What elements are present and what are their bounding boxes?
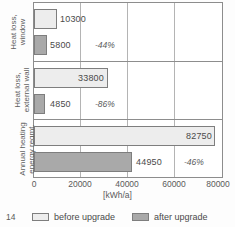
category-label-line-1: Heat loss, [13,68,22,112]
category-label-line-1: Heat loss, [9,14,18,50]
gridline-20000 [80,3,81,177]
category-label-line-1: Annual heating [18,122,27,175]
xtick-40000: 40000 [115,179,139,189]
legend-label-before-upgrade: before upgrade [54,212,115,222]
legend-item-before-upgrade: before upgrade [32,212,115,222]
category-label-heat-loss-window: Heat loss, window [0,2,30,61]
xtick-20000: 20000 [68,179,92,189]
bar-value-after-external-wall: 4850 [50,99,71,109]
bar-after-window [34,35,47,55]
category-label-line-2: external wall [22,68,31,112]
xtick-60000: 60000 [162,179,186,189]
bar-change-annual-heating: -46% [184,157,204,167]
bar-after-annual-heating [34,152,132,172]
xtick-0: 0 [32,179,37,189]
bar-after-external-wall [34,94,45,114]
category-label-heat-loss-external-wall: Heat loss, external wall [0,61,30,119]
xtick-80000: 80000 [206,179,230,189]
bar-change-window: -44% [95,40,115,50]
chart-legend: before upgrade after upgrade [0,209,235,225]
gridline-40000 [127,3,128,177]
bar-chart: Heat loss, window 10300 5800 -44% Heat l… [0,0,235,227]
bar-value-before-external-wall: 33800 [78,73,104,83]
category-label-annual-heating-energy: Annual heating energy reqmt. [0,119,30,178]
bar-before-window [34,9,57,29]
gridline-60000 [174,3,175,177]
category-label-line-2: window [18,14,27,50]
legend-swatch-before-icon [32,213,49,221]
category-separator-1 [33,61,223,62]
category-separator-2 [33,119,223,120]
bar-change-external-wall: -86% [95,99,115,109]
bar-value-after-window: 5800 [50,40,71,50]
x-axis-title: [kWh/a] [0,190,235,200]
legend-label-after-upgrade: after upgrade [154,212,208,222]
bar-value-before-window: 10300 [60,14,86,24]
bar-value-before-annual-heating: 82750 [186,131,212,141]
legend-item-after-upgrade: after upgrade [132,212,208,222]
legend-swatch-after-icon [132,213,149,221]
bar-value-after-annual-heating: 44950 [136,157,162,167]
